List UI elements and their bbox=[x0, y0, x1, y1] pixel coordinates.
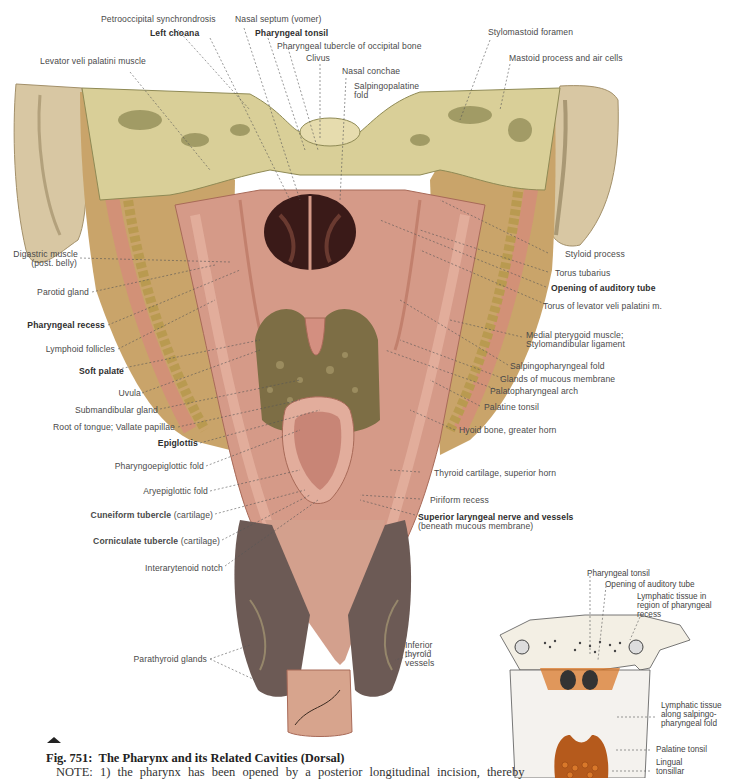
label-mastoid-process: Mastoid process and air cells bbox=[509, 53, 623, 63]
trachea-illustration bbox=[287, 670, 352, 737]
label-lymphoid-follicles: Lymphoid follicles bbox=[46, 344, 115, 354]
inset-label-lymphatic-salpingo-1: Lymphatic tissue bbox=[661, 701, 722, 710]
label-pharyngeal-tonsil: Pharyngeal tonsil bbox=[255, 28, 328, 38]
label-interarytenoid-notch: Interarytenoid notch bbox=[145, 563, 223, 573]
inset-label-lymphatic-recess-3: recess bbox=[637, 610, 661, 619]
label-opening-of-auditory-tube: Opening of auditory tube bbox=[551, 283, 656, 293]
figure-note: NOTE: 1) the pharynx has been opened by … bbox=[56, 765, 524, 780]
label-corniculate-tubercle: Corniculate tubercle (cartilage) bbox=[93, 536, 220, 546]
label-submandibular-gland: Submandibular gland bbox=[75, 405, 158, 415]
inset-label-lymphatic-recess-2: region of pharyngeal bbox=[637, 601, 712, 610]
label-soft-palate: Soft palate bbox=[79, 366, 124, 376]
label-root-of-tongue: Root of tongue; Vallate papillae bbox=[53, 422, 175, 432]
inset-label-opening-auditory-tube: Opening of auditory tube bbox=[605, 580, 695, 589]
label-epiglottis: Epiglottis bbox=[158, 438, 198, 448]
label-styloid-process: Styloid process bbox=[565, 249, 625, 259]
label-torus-of-levator: Torus of levator veli palatini m. bbox=[543, 301, 662, 311]
label-clivus: Clivus bbox=[306, 53, 330, 63]
label-pharyngeal-tubercle: Pharyngeal tubercle of occipital bone bbox=[277, 41, 422, 51]
label-salpingopalatine-fold: fold bbox=[354, 90, 368, 100]
figure-number: Fig. 751: bbox=[46, 751, 93, 765]
figure-title: The Pharynx and its Related Cavities (Do… bbox=[99, 751, 345, 765]
label-pharyngoepiglottic-fold: Pharyngoepiglottic fold bbox=[115, 461, 204, 471]
label-digastric-post-belly: (post. belly) bbox=[31, 258, 77, 268]
label-parathyroid-glands: Parathyroid glands bbox=[134, 654, 207, 664]
label-stylomandibular-ligament: Stylomandibular ligament bbox=[526, 339, 625, 349]
inset-label-tonsillar: tonsillar bbox=[656, 767, 684, 776]
label-stylomastoid-foramen: Stylomastoid foramen bbox=[488, 27, 573, 37]
label-parotid-gland: Parotid gland bbox=[37, 287, 89, 297]
label-aryepiglottic-fold: Aryepiglottic fold bbox=[143, 486, 208, 496]
label-nasal-septum: Nasal septum (vomer) bbox=[235, 14, 322, 24]
label-beneath-mucous-membrane: (beneath mucous membrane) bbox=[418, 521, 533, 531]
label-inferior-thyroid-3: vessels bbox=[405, 658, 434, 668]
label-salpingopharyngeal-fold: Salpingopharyngeal fold bbox=[510, 361, 605, 371]
label-petrooccipital-synchondrosis: Petrooccipital synchrondrosis bbox=[101, 14, 216, 24]
label-palatine-tonsil: Palatine tonsil bbox=[484, 402, 539, 412]
inset-label-lymphatic-salpingo-2: along salpingo- bbox=[661, 710, 717, 719]
label-hyoid-bone: Hyoid bone, greater horn bbox=[459, 425, 556, 435]
label-piriform-recess: Piriform recess bbox=[430, 495, 489, 505]
inset-label-lingual: Lingual bbox=[656, 758, 682, 767]
figure-caption: Fig. 751: The Pharynx and its Related Ca… bbox=[46, 751, 344, 766]
inset-label-pharyngeal-tonsil: Pharyngeal tonsil bbox=[587, 569, 650, 578]
label-pharyngeal-recess: Pharyngeal recess bbox=[27, 320, 105, 330]
inset-label-palatine-tonsil: Palatine tonsil bbox=[656, 745, 707, 754]
inset-label-lymphatic-salpingo-3: pharyngeal fold bbox=[661, 719, 717, 728]
label-cuneiform-tubercle: Cuneiform tubercle (cartilage) bbox=[91, 510, 213, 520]
label-uvula: Uvula bbox=[119, 388, 141, 398]
triangle-up-icon bbox=[47, 737, 61, 743]
label-torus-tubarius: Torus tubarius bbox=[555, 268, 610, 278]
label-nasal-conchae: Nasal conchae bbox=[342, 66, 400, 76]
label-levator-veli-palatini: Levator veli palatini muscle bbox=[40, 56, 146, 66]
inset-label-lymphatic-recess-1: Lymphatic tissue in bbox=[637, 592, 706, 601]
label-glands-of-mucous-membrane: Glands of mucous membrane bbox=[500, 374, 615, 384]
label-palatopharyngeal-arch: Palatopharyngeal arch bbox=[490, 386, 578, 396]
left-ear-illustration bbox=[14, 84, 87, 263]
label-thyroid-cartilage: Thyroid cartilage, superior horn bbox=[434, 468, 556, 478]
label-left-choana: Left choana bbox=[150, 28, 199, 38]
